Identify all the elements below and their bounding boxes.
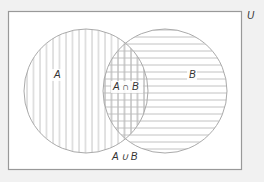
venn-diagram: U A B A ∩ B A ∪ B [0, 0, 264, 182]
intersection-label: A ∩ B [112, 81, 139, 92]
universe-label: U [247, 10, 255, 21]
set-a-label: A [53, 69, 61, 80]
union-label: A ∪ B [111, 151, 138, 162]
set-b-label: B [189, 69, 196, 80]
